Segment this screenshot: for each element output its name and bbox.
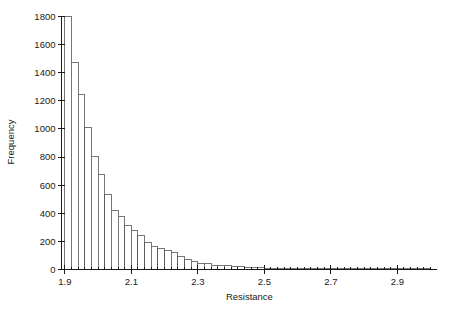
y-tick-label: 1800 (34, 11, 55, 22)
histogram-bar (198, 263, 205, 269)
histogram-bar (191, 261, 198, 269)
y-tick-label: 600 (40, 180, 56, 191)
histogram-bars (65, 17, 431, 270)
y-tick-label: 800 (40, 151, 56, 162)
histogram-bar (78, 95, 85, 270)
x-axis-label: Resistance (226, 291, 273, 302)
histogram-figure: 1.92.12.32.52.72.9 020040060080010001200… (0, 0, 460, 310)
y-tick-label: 400 (40, 208, 56, 219)
y-tick-label: 1600 (34, 39, 55, 50)
histogram-bar (118, 216, 125, 269)
histogram-bar (145, 242, 152, 269)
histogram-bar (151, 246, 158, 269)
x-tick-label: 2.7 (324, 276, 337, 287)
y-tick-label: 1400 (34, 67, 55, 78)
histogram-bar (211, 265, 218, 270)
histogram-bar (158, 248, 165, 269)
y-tick-label: 1200 (34, 95, 55, 106)
x-tick-label: 2.9 (391, 276, 404, 287)
histogram-bar (178, 257, 185, 270)
y-tick-label: 1000 (34, 123, 55, 134)
histogram-bar (218, 266, 225, 270)
histogram-bar (71, 63, 78, 270)
x-tick-label: 2.3 (191, 276, 204, 287)
histogram-bar (131, 231, 138, 270)
histogram-bar (224, 266, 231, 270)
x-tick-label: 1.9 (58, 276, 71, 287)
histogram-bar (185, 259, 192, 269)
y-axis-tick-labels: 020040060080010001200140016001800 (34, 11, 55, 275)
histogram-bar (91, 156, 98, 269)
x-tick-label: 2.1 (125, 276, 138, 287)
y-axis-label: Frequency (5, 119, 16, 164)
histogram-bar (111, 210, 118, 269)
y-tick-label: 200 (40, 236, 56, 247)
histogram-bar (98, 175, 105, 270)
histogram-bar (105, 194, 112, 269)
histogram-bar (138, 236, 145, 270)
histogram-bar (165, 251, 172, 270)
x-axis-tick-labels: 1.92.12.32.52.72.9 (58, 276, 404, 287)
y-tick-label: 0 (50, 264, 55, 275)
chart-canvas: 1.92.12.32.52.72.9 020040060080010001200… (0, 0, 460, 310)
x-tick-label: 2.5 (258, 276, 271, 287)
histogram-bar (65, 17, 72, 270)
histogram-bar (125, 226, 132, 270)
histogram-bar (85, 128, 92, 270)
histogram-bar (171, 253, 178, 270)
histogram-bar (204, 264, 211, 270)
